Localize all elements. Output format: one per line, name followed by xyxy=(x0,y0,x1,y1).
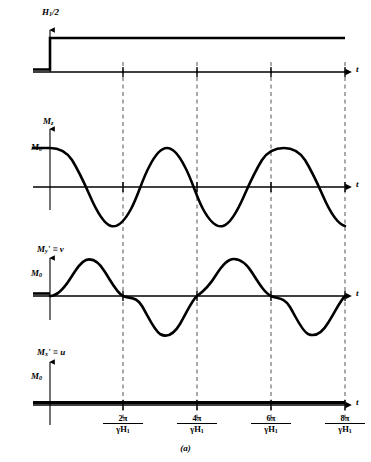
my-axis-label: My' ≡ v xyxy=(37,245,64,254)
h1-axis-label: H1/2 xyxy=(42,8,59,17)
xtick-2pi-denominator: γH1 xyxy=(103,423,143,434)
xtick-8pi: 8π γH1 xyxy=(325,414,365,434)
h1-t-label: t xyxy=(356,64,359,74)
xtick-8pi-numerator: 8π xyxy=(325,414,365,423)
mx-t-label: t xyxy=(356,397,359,407)
xtick-2pi-numerator: 2π xyxy=(103,414,143,423)
h1-step-curve xyxy=(33,38,345,70)
mz-axis-label: Mz xyxy=(43,117,53,126)
xtick-6pi-denominator: γH1 xyxy=(251,423,291,434)
mz-amplitude-label: M0 xyxy=(31,143,42,152)
panel-h1 xyxy=(33,30,346,77)
xtick-6pi: 6π γH1 xyxy=(251,414,291,434)
mx-amplitude-label: M0 xyxy=(31,372,42,381)
figure-container: H1/2 t Mz M0 t My' ≡ v M0 t Mx' ≡ u M0 t… xyxy=(0,0,371,462)
panel-my xyxy=(33,258,346,336)
xtick-8pi-denominator: γH1 xyxy=(325,423,365,434)
xtick-2pi: 2π γH1 xyxy=(103,414,143,434)
mx-axis-label: Mx' ≡ u xyxy=(37,348,65,357)
my-amplitude-label: M0 xyxy=(31,269,42,278)
xtick-6pi-numerator: 6π xyxy=(251,414,291,423)
panel-mz xyxy=(33,129,346,226)
xtick-4pi-denominator: γH1 xyxy=(177,423,217,434)
figure-caption: (a) xyxy=(0,443,371,453)
figure-svg xyxy=(0,0,371,462)
xtick-4pi-numerator: 4π xyxy=(177,414,217,423)
gridlines xyxy=(123,62,345,420)
my-t-label: t xyxy=(356,288,359,298)
xtick-4pi: 4π γH1 xyxy=(177,414,217,434)
mz-t-label: t xyxy=(356,179,359,189)
